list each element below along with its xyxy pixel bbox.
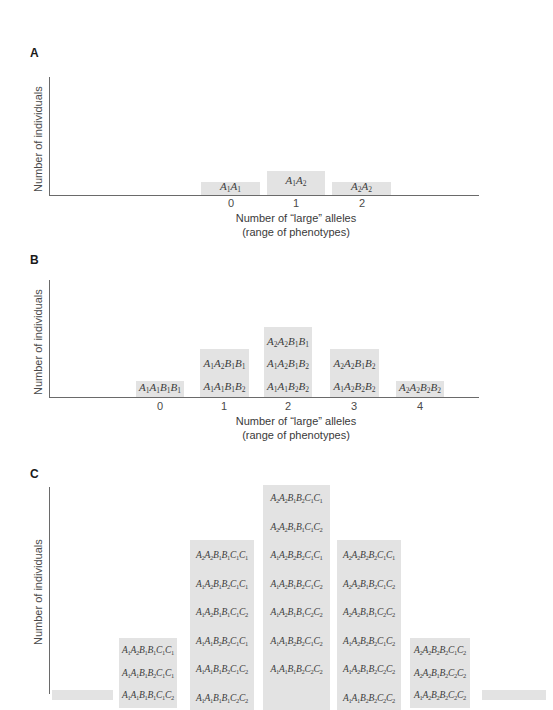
genotype-label: A1A2B2B2C1C2 bbox=[343, 637, 395, 648]
x-axis-label-a: Number of “large” alleles (range of phen… bbox=[196, 211, 396, 239]
x-axis-subtitle-b: (range of phenotypes) bbox=[196, 428, 396, 442]
genotype-label: A1A2B1B2 bbox=[267, 358, 309, 371]
bar-b-0: A1A1B1B1 bbox=[136, 381, 184, 397]
genotype-label: A2A2B2B2C1C2 bbox=[414, 646, 466, 657]
x-axis-subtitle-a: (range of phenotypes) bbox=[196, 225, 396, 239]
tick-a-0: 0 bbox=[221, 197, 241, 209]
x-axis-b bbox=[49, 397, 479, 398]
genotype-label: A1A1B1B2 bbox=[204, 381, 246, 394]
y-axis-b bbox=[49, 280, 50, 398]
y-axis-label-c: Number of individuals bbox=[32, 539, 44, 645]
panel-letter-b: B bbox=[30, 253, 39, 267]
tick-b-0: 0 bbox=[150, 400, 170, 412]
genotype-label: A1A1B2B2C1C1 bbox=[196, 637, 248, 648]
tick-b-2: 2 bbox=[278, 400, 298, 412]
x-axis-title-b: Number of “large” alleles bbox=[196, 414, 396, 428]
genotype-label: A1A2B1B2C2C2 bbox=[343, 665, 395, 676]
y-axis-c bbox=[49, 487, 50, 694]
genotype-label: A1A2B2B2 bbox=[334, 381, 376, 394]
genotype-label: A1A2B1B1C1C1 bbox=[122, 646, 174, 657]
x-axis-label-b: Number of “large” alleles (range of phen… bbox=[196, 414, 396, 442]
y-axis-label-a: Number of individuals bbox=[32, 86, 44, 192]
genotype-label: A2A2B1B2 bbox=[334, 358, 376, 371]
panel-letter-a: A bbox=[30, 46, 39, 60]
bar-c-4: A2A2B2B2C1C1 A2A2B1B2C1C2 A2A2B1B1C2C2 A… bbox=[337, 540, 401, 710]
genotype-label: A1A1B1B2C2C2 bbox=[271, 665, 323, 676]
tick-b-4: 4 bbox=[410, 400, 430, 412]
genotype-label: A2A2B2B2 bbox=[399, 382, 441, 395]
bar-a-1: A1A2 bbox=[267, 171, 325, 195]
genotype-label: A1A1B2B2C2C2 bbox=[343, 694, 395, 705]
genotype-label: A2A2B1B2C1C2 bbox=[343, 580, 395, 591]
bar-a-2: A2A2 bbox=[332, 182, 391, 195]
bar-a-0: A1A1 bbox=[201, 182, 260, 195]
bar-c-5: A2A2B2B2C1C2 A2A2B1B2C2C2 A1A2B2B2C2C2 bbox=[410, 638, 470, 708]
genotype-label: A1A2B2B2C2C2 bbox=[414, 691, 466, 702]
genotype-label: A1A2B1B1C2C2 bbox=[271, 608, 323, 619]
bar-c-3: A2A2B1B2C1C1 A2A2B1B1C1C2 A1A2B2B2C1C1 A… bbox=[263, 485, 330, 710]
genotype-label: A1A1B1B1C1C2 bbox=[122, 691, 174, 702]
genotype-label: A1A2B1B1C1C2 bbox=[196, 608, 248, 619]
genotype-label: A2A2B1B1C1C2 bbox=[271, 523, 323, 534]
genotype-label: A1A1B1B1 bbox=[139, 382, 181, 395]
y-axis-a bbox=[49, 77, 50, 196]
genotype-label: A2A2B1B1C1C1 bbox=[196, 551, 248, 562]
bar-b-3: A2A2B1B2 A1A2B2B2 bbox=[330, 349, 379, 397]
tick-a-2: 2 bbox=[352, 197, 372, 209]
genotype-label: A1A1B1B1C2C2 bbox=[196, 694, 248, 705]
bar-b-1: A1A2B1B1 A1A1B1B2 bbox=[200, 349, 249, 397]
genotype-label: A1A2B1B2C1C1 bbox=[196, 580, 248, 591]
genotype-label: A1A2B2B2C1C1 bbox=[271, 551, 323, 562]
genotype-label: A1A1 bbox=[220, 181, 241, 194]
bar-b-2: A2A2B1B1 A1A2B1B2 A1A1B2B2 bbox=[264, 327, 312, 397]
genotype-label: A2A2B1B2C1C1 bbox=[271, 494, 323, 505]
bar-c-1: A1A2B1B1C1C1 A1A1B1B2C1C1 A1A1B1B1C1C2 bbox=[119, 638, 177, 708]
genotype-label: A1A2 bbox=[286, 175, 307, 188]
genotype-label: A2A2B2B2C1C1 bbox=[343, 551, 395, 562]
genotype-label: A1A1B2B2 bbox=[267, 381, 309, 394]
genotype-label: A2A2B1B1C2C2 bbox=[343, 608, 395, 619]
genotype-label: A2A2B1B1 bbox=[267, 336, 309, 349]
panel-letter-c: C bbox=[30, 467, 39, 481]
x-axis-title-a: Number of “large” alleles bbox=[196, 211, 396, 225]
genotype-label: A1A1B1B2C1C2 bbox=[196, 665, 248, 676]
bar-c-0 bbox=[52, 690, 113, 700]
genotype-label: A1A1B2B2C1C2 bbox=[271, 637, 323, 648]
tick-b-3: 3 bbox=[344, 400, 364, 412]
genotype-label: A2A2 bbox=[351, 181, 372, 194]
genotype-label: A1A2B1B2C1C2 bbox=[271, 580, 323, 591]
genotype-label: A1A1B1B2C1C1 bbox=[122, 669, 174, 680]
genotype-label: A2A2B1B2C2C2 bbox=[414, 669, 466, 680]
genotype-label: A1A2B1B1 bbox=[204, 358, 246, 371]
tick-a-1: 1 bbox=[286, 197, 306, 209]
y-axis-label-b: Number of individuals bbox=[32, 289, 44, 395]
x-axis-a bbox=[49, 195, 479, 196]
bar-c-6 bbox=[482, 690, 546, 700]
bar-b-4: A2A2B2B2 bbox=[396, 381, 444, 397]
tick-b-1: 1 bbox=[214, 400, 234, 412]
bar-c-2: A2A2B1B1C1C1 A1A2B1B2C1C1 A1A2B1B1C1C2 A… bbox=[190, 540, 254, 710]
